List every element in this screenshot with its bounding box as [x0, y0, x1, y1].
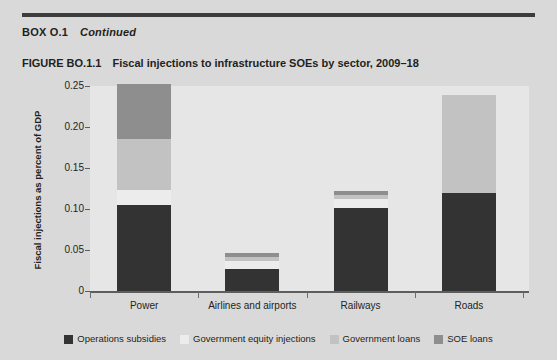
y-tick-label: 0.10	[50, 204, 84, 214]
legend-swatch	[434, 335, 443, 344]
bar-segment-operations-subsidies[interactable]	[225, 269, 279, 291]
box-header: BOX O.1Continued	[22, 26, 136, 38]
legend-swatch	[64, 335, 73, 344]
y-tick-label: 0.20	[50, 122, 84, 132]
legend: Operations subsidiesGovernment equity in…	[22, 332, 535, 346]
y-tick-label: 0.15	[50, 163, 84, 173]
legend-label: Government equity injections	[193, 334, 316, 344]
y-tick-label: 0.25	[50, 81, 84, 91]
legend-item-government-loans[interactable]: Government loans	[330, 334, 421, 344]
legend-item-government-equity-injections[interactable]: Government equity injections	[180, 334, 316, 344]
y-tick-label: 0	[50, 286, 84, 296]
bar-segment-government-loans[interactable]	[117, 139, 171, 190]
y-axis-tick-labels: 00.050.100.150.200.25	[48, 82, 84, 297]
bar-segment-government-equity-injections[interactable]	[225, 261, 279, 269]
legend-item-operations-subsidies[interactable]: Operations subsidies	[64, 334, 166, 344]
figure-title-text: Fiscal injections to infrastructure SOEs…	[112, 57, 418, 69]
bar-segment-operations-subsidies[interactable]	[117, 205, 171, 291]
bar-segment-operations-subsidies[interactable]	[334, 208, 388, 291]
y-axis-title: Fiscal injections as percent of GDP	[32, 82, 46, 298]
bar-power[interactable]	[117, 84, 171, 291]
header-rule	[22, 13, 535, 17]
x-tick-mark	[415, 292, 416, 298]
bar-roads[interactable]	[442, 95, 496, 291]
legend-swatch	[330, 335, 339, 344]
bar-segment-soe-loans[interactable]	[117, 84, 171, 139]
bar-segment-government-equity-injections[interactable]	[117, 190, 171, 205]
x-axis-line	[90, 291, 529, 293]
legend-label: Operations subsidies	[77, 334, 166, 344]
x-tick-mark	[307, 292, 308, 298]
legend-label: SOE loans	[447, 334, 492, 344]
legend-label: Government loans	[343, 334, 421, 344]
figure-number: FIGURE BO.1.1	[22, 57, 101, 69]
x-tick-mark	[523, 292, 524, 298]
box-label: BOX O.1	[22, 26, 68, 38]
bar-segment-government-equity-injections[interactable]	[334, 199, 388, 208]
legend-swatch	[180, 335, 189, 344]
x-tick-mark	[90, 292, 91, 298]
legend-item-soe-loans[interactable]: SOE loans	[434, 334, 492, 344]
chart-container: Fiscal injections as percent of GDP 00.0…	[22, 82, 535, 322]
bar-segment-government-loans[interactable]	[442, 95, 496, 193]
box-continued-label: Continued	[80, 26, 136, 38]
bar-airlines-and-airports[interactable]	[225, 253, 279, 291]
y-tick-label: 0.05	[50, 245, 84, 255]
plot-area	[90, 86, 529, 291]
figure-caption: FIGURE BO.1.1Fiscal injections to infras…	[22, 57, 419, 69]
x-tick-mark	[198, 292, 199, 298]
x-tick-label: Roads	[404, 300, 534, 311]
bar-segment-operations-subsidies[interactable]	[442, 193, 496, 291]
bar-railways[interactable]	[334, 191, 388, 291]
